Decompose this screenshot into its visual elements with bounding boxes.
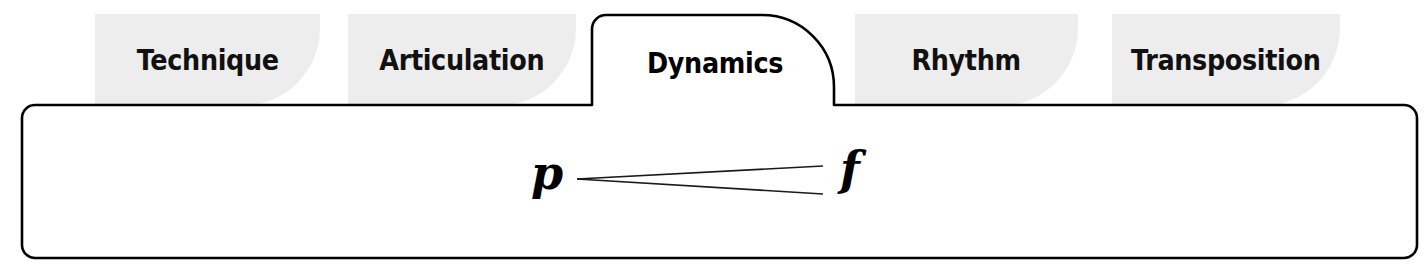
tabbed-panel: Technique Articulation Rhythm Transposit… [0,0,1427,271]
dynamic-marking-forte: f [840,146,860,192]
crescendo-hairpin-icon [575,148,825,208]
tab-articulation-label: Articulation [380,43,545,77]
tab-technique-label: Technique [136,43,278,77]
tab-rhythm-label: Rhythm [912,43,1021,77]
tab-rhythm[interactable]: Rhythm [855,14,1078,106]
dynamics-notation-example: p f [505,140,925,225]
tab-technique[interactable]: Technique [95,14,320,106]
dynamic-marking-piano: p [531,150,563,196]
tab-articulation[interactable]: Articulation [348,14,576,106]
tab-transposition[interactable]: Transposition [1112,14,1340,106]
tab-dynamics-label[interactable]: Dynamics [636,46,794,80]
tab-transposition-label: Transposition [1131,43,1321,77]
